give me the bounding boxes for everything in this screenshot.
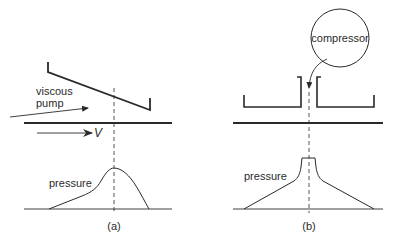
bearing-pad-left	[244, 77, 301, 107]
pressure-label-a: pressure	[49, 177, 92, 189]
caption-b: (b)	[302, 220, 315, 232]
panel-a: viscous pump V pressure (a)	[10, 62, 172, 232]
pump-label: pump	[36, 97, 64, 109]
viscous-label: viscous	[36, 85, 73, 97]
panel-b: compressor pressure (b)	[233, 9, 383, 232]
caption-a: (a)	[107, 220, 120, 232]
pressure-label-b: pressure	[244, 170, 287, 182]
velocity-label: V	[94, 126, 103, 140]
compressor-feed-arrow	[309, 59, 327, 88]
bearing-pad-right	[317, 77, 374, 107]
compressor-label: compressor	[311, 32, 369, 44]
viscous-pump-arrow	[10, 108, 88, 117]
diagram-canvas: viscous pump V pressure (a) compressor p…	[0, 0, 393, 242]
